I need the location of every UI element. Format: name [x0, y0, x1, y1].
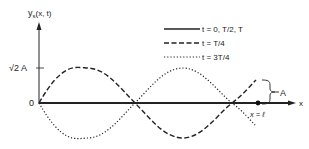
end-point-label: x = ℓ: [249, 110, 265, 119]
origin-label: 0: [29, 98, 34, 108]
legend: t = 0, T/2, T t = T/4 t = 3T/4: [164, 25, 243, 62]
legend-label-solid: t = 0, T/2, T: [202, 25, 243, 34]
brace-label: A: [280, 88, 286, 98]
x-axis-label: x: [299, 99, 303, 108]
standing-wave-diagram: ys(x, t) √2 A x 0 x = ℓ A t = 0, T/2, T …: [0, 0, 309, 149]
amplitude-tick-label: √2 A: [9, 63, 27, 73]
x-axis-arrow-icon: [288, 101, 296, 106]
legend-label-dashed: t = T/4: [202, 39, 225, 48]
amplitude-brace: [262, 80, 275, 104]
end-point-marker: [256, 101, 261, 106]
y-axis-arrow-icon: [37, 22, 42, 30]
y-axis-label: ys(x, t): [28, 8, 52, 19]
legend-label-dotted: t = 3T/4: [202, 53, 230, 62]
